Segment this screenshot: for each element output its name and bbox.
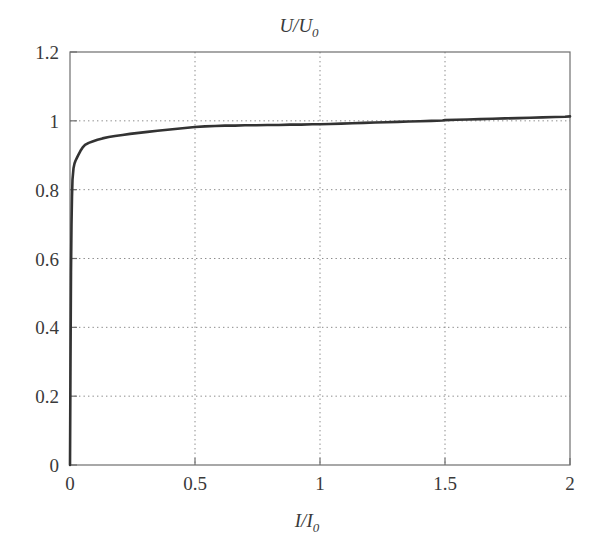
y-tick-label: 0.8 xyxy=(35,180,59,201)
y-tick-labels-group: 00.20.40.60.811.2 xyxy=(35,42,59,476)
y-tick-label: 0 xyxy=(50,455,60,476)
y-tick-label: 1.2 xyxy=(35,42,59,63)
x-tick-label: 0.5 xyxy=(183,473,207,494)
chart-title: U/U0 xyxy=(279,15,319,40)
x-axis-title: I/I0 xyxy=(294,510,320,535)
x-tick-labels-group: 00.511.52 xyxy=(65,473,575,494)
y-tick-label: 0.6 xyxy=(35,249,59,270)
figure-container: 00.511.52 00.20.40.60.811.2 U/U0 I/I0 xyxy=(0,0,599,550)
gridlines-group xyxy=(70,52,570,465)
x-tick-label: 1.5 xyxy=(433,473,457,494)
x-tick-label: 2 xyxy=(565,473,575,494)
chart-canvas: 00.511.52 00.20.40.60.811.2 U/U0 I/I0 xyxy=(0,0,599,550)
x-tick-label: 1 xyxy=(315,473,325,494)
y-tick-label: 0.2 xyxy=(35,386,59,407)
x-tick-label: 0 xyxy=(65,473,75,494)
y-tick-label: 0.4 xyxy=(35,317,59,338)
y-tick-label: 1 xyxy=(50,111,60,132)
